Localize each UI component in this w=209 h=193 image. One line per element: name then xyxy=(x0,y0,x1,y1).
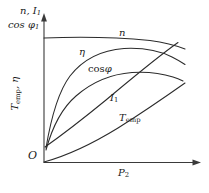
curve-label-temp-main: T xyxy=(119,112,126,123)
y-axis-label: Temp, η xyxy=(10,64,21,124)
curve-label-cosphi-prefix: cos xyxy=(88,63,105,74)
y-axis-label-subscript: emp xyxy=(14,89,22,104)
curve-label-cosphi: cosφ xyxy=(88,64,112,74)
y-axis-top-label-line2-main: cos φ xyxy=(8,19,35,30)
curve-label-cosphi-symbol: φ xyxy=(105,63,112,74)
curve-label-temp: Temp xyxy=(119,113,141,124)
x-axis xyxy=(44,160,201,166)
y-axis-top-label-line1-main: n, I xyxy=(20,5,37,16)
x-axis-label: P2 xyxy=(118,168,129,179)
performance-characteristics-chart: n, I1 cos φ1 Temp, η P2 O n η cosφ I1 Te… xyxy=(0,0,209,193)
x-axis-label-main: P xyxy=(118,167,125,178)
curve-n xyxy=(44,37,185,49)
y-axis-label-tail: , η xyxy=(9,77,20,89)
curve-label-eta: η xyxy=(79,47,85,57)
y-axis-arrowhead xyxy=(41,13,47,22)
curve-cosphi xyxy=(46,72,183,150)
y-axis-top-label-line1-subscript: 1 xyxy=(37,9,41,17)
origin-label: O xyxy=(28,150,37,161)
curve-label-n: n xyxy=(119,28,125,38)
y-axis-label-main: T xyxy=(9,104,20,111)
curve-label-i1-subscript: 1 xyxy=(114,96,118,104)
curve-label-i1: I1 xyxy=(110,93,118,104)
x-axis-arrowhead xyxy=(193,160,202,166)
y-axis-top-label-line2-subscript: 1 xyxy=(35,23,39,31)
y-axis-top-label-line2: cos φ1 xyxy=(8,20,39,31)
y-axis xyxy=(41,13,47,163)
curve-label-temp-subscript: emp xyxy=(126,116,141,124)
y-axis-top-label-line1: n, I1 xyxy=(20,6,41,17)
x-axis-label-subscript: 2 xyxy=(125,171,129,179)
